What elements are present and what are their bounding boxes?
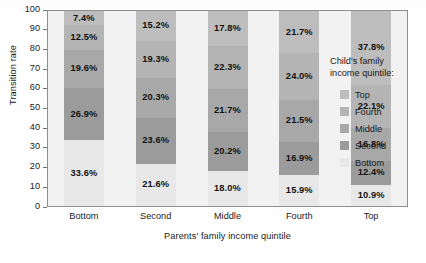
bar-segment-label: 19.6%	[70, 64, 97, 73]
legend-swatch-icon	[340, 158, 349, 167]
y-axis-tick-label: 10	[30, 181, 40, 191]
x-axis-tick-label: Second	[120, 211, 192, 221]
bar-segment-label: 23.6%	[142, 136, 169, 145]
x-axis-tick-label: Top	[335, 211, 407, 221]
bar-segment-label: 7.4%	[73, 14, 95, 23]
bar-segment-label: 21.6%	[142, 180, 169, 189]
bar-segment[interactable]: 17.8%	[208, 11, 248, 46]
y-axis-title: Transition rate	[8, 0, 18, 165]
bar-segment[interactable]: 26.9%	[64, 88, 104, 140]
bar-segment-label: 37.8%	[358, 43, 385, 52]
legend-title: Child's family income quintile:	[330, 56, 406, 79]
bar-segment-label: 22.3%	[214, 63, 241, 72]
bar-segment[interactable]: 18.0%	[208, 171, 248, 206]
bar-group[interactable]: 15.9%16.9%21.5%24.0%21.7%	[279, 11, 319, 206]
bar-segment[interactable]: 21.7%	[208, 89, 248, 131]
bar-segment-label: 18.0%	[214, 184, 241, 193]
legend-swatch-icon	[340, 124, 349, 133]
bar-segment[interactable]: 21.5%	[279, 100, 319, 142]
bar-segment[interactable]: 10.9%	[351, 185, 391, 206]
bar-segment-label: 21.7%	[214, 106, 241, 115]
x-axis-tick-label: Middle	[192, 211, 264, 221]
legend-label: Bottom	[355, 158, 384, 168]
bar-segment[interactable]: 7.4%	[64, 11, 104, 25]
bar-segment[interactable]: 15.2%	[136, 11, 176, 41]
bar-segment[interactable]: 21.6%	[136, 164, 176, 206]
bar-segment[interactable]: 20.3%	[136, 78, 176, 118]
legend-label: Middle	[355, 124, 382, 134]
bar-group[interactable]: 18.0%20.2%21.7%22.3%17.8%	[208, 11, 248, 206]
y-axis-tick-label: 40	[30, 122, 40, 132]
y-axis-tick-label: 30	[30, 141, 40, 151]
bar-segment[interactable]: 33.6%	[64, 140, 104, 206]
bar-segment-label: 26.9%	[70, 110, 97, 119]
stacked-bar-chart: Transition rate 0102030405060708090100 3…	[0, 0, 426, 263]
legend-items: TopFourthMiddleSecondBottom	[340, 86, 406, 171]
x-axis-title: Parents' family income quintile	[48, 231, 407, 241]
legend-swatch-icon	[340, 107, 349, 116]
bar-segment-label: 20.2%	[214, 147, 241, 156]
bar-segment-label: 20.3%	[142, 93, 169, 102]
bar-segment[interactable]: 12.5%	[64, 25, 104, 49]
bar-segment-label: 12.5%	[70, 33, 97, 42]
bar-segment-label: 15.9%	[286, 186, 313, 195]
legend-row[interactable]: Second	[340, 137, 406, 154]
y-axis-tick-label: 60	[30, 82, 40, 92]
legend-row[interactable]: Top	[340, 86, 406, 103]
bar-segment[interactable]: 19.6%	[64, 50, 104, 88]
bar-segment-label: 24.0%	[286, 72, 313, 81]
legend-swatch-icon	[340, 141, 349, 150]
legend: Child's family income quintile: TopFourt…	[330, 56, 406, 171]
x-axis-tick-labels: BottomSecondMiddleFourthTop	[48, 211, 407, 225]
bar-segment[interactable]: 20.2%	[208, 132, 248, 171]
bar-segment[interactable]: 15.9%	[279, 175, 319, 206]
legend-label: Top	[355, 90, 370, 100]
x-axis-tick-label: Bottom	[48, 211, 120, 221]
bar-group[interactable]: 21.6%23.6%20.3%19.3%15.2%	[136, 11, 176, 206]
bar-segment-label: 21.7%	[286, 28, 313, 37]
y-axis-tick-label: 50	[30, 102, 40, 112]
bar-segment[interactable]: 22.3%	[208, 46, 248, 89]
bar-segment-label: 21.5%	[286, 116, 313, 125]
legend-row[interactable]: Fourth	[340, 103, 406, 120]
y-axis-tick-label: 100	[25, 4, 40, 14]
y-axis-tick-label: 80	[30, 43, 40, 53]
y-axis-tick-label: 20	[30, 161, 40, 171]
bar-segment[interactable]: 23.6%	[136, 118, 176, 164]
bar-segment[interactable]: 21.7%	[279, 11, 319, 53]
legend-row[interactable]: Bottom	[340, 154, 406, 171]
legend-swatch-icon	[340, 90, 349, 99]
bar-segment-label: 10.9%	[358, 191, 385, 200]
legend-label: Fourth	[355, 107, 382, 117]
bar-group[interactable]: 33.6%26.9%19.6%12.5%7.4%	[64, 11, 104, 206]
bar-segment-label: 19.3%	[142, 55, 169, 64]
y-axis-tick-label: 90	[30, 23, 40, 33]
legend-label: Second	[355, 141, 386, 151]
y-axis-tick-label: 0	[35, 201, 40, 211]
scan-artifact-band	[0, 0, 426, 8]
bar-segment[interactable]: 19.3%	[136, 41, 176, 79]
bar-segment-label: 15.2%	[142, 21, 169, 30]
x-axis-tick-label: Fourth	[263, 211, 335, 221]
legend-row[interactable]: Middle	[340, 120, 406, 137]
bar-segment-label: 16.9%	[286, 154, 313, 163]
bar-segment-label: 17.8%	[214, 24, 241, 33]
y-axis-tick-label: 70	[30, 63, 40, 73]
bar-segment[interactable]: 24.0%	[279, 53, 319, 100]
bar-segment-label: 33.6%	[70, 169, 97, 178]
bar-segment[interactable]: 16.9%	[279, 142, 319, 175]
